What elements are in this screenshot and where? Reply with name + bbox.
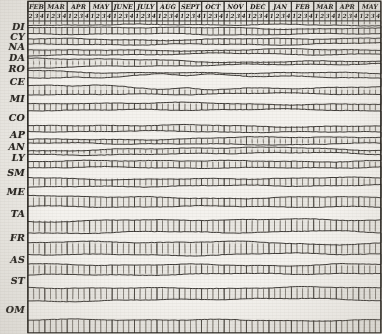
week-header-label: 1 (90, 13, 94, 19)
week-header-label: 3 (259, 13, 263, 19)
week-header-label: 2 (230, 13, 235, 19)
week-header-label: 2 (95, 13, 100, 19)
week-header-label: 1 (337, 13, 341, 19)
chart-page: DICYNADAROCEMICOAPANLYSMMETAFRASSTOM FEB… (0, 0, 382, 334)
header-layer: FEBMARAPRMAYJUNEJULYAUGSEPTOCTNOVDECJANF… (28, 1, 381, 21)
week-header-label: 2 (140, 13, 145, 19)
row-label-ap: AP (10, 130, 25, 140)
band-outline (28, 109, 381, 128)
month-header-label: FEB (28, 3, 44, 11)
row-label-me: ME (7, 187, 25, 197)
week-header-label: 1 (46, 13, 50, 19)
month-header-label: SEPT (181, 3, 201, 11)
week-header-label: 3 (124, 13, 128, 19)
band-outline (28, 273, 381, 288)
week-header-label: 2 (207, 13, 212, 19)
week-header-label: 2 (297, 13, 302, 19)
week-header-label: 4 (376, 13, 380, 19)
month-header-label: MAY (361, 3, 380, 11)
week-header-label: 2 (364, 13, 369, 19)
week-header-label: 4 (62, 13, 66, 19)
week-header-label: 1 (225, 13, 229, 19)
month-header-label: AUG (159, 3, 177, 11)
row-label-cy: CY (10, 32, 25, 42)
week-header-label: 4 (354, 13, 358, 19)
week-header-label: 1 (247, 13, 251, 19)
week-header-label: 1 (180, 13, 184, 19)
week-header-label: 2 (274, 13, 279, 19)
week-header-label: 3 (371, 13, 375, 19)
month-header-label: APR (339, 3, 355, 11)
week-header-label: 2 (319, 13, 324, 19)
week-header-label: 3 (34, 13, 38, 19)
month-header-label: FEB (294, 3, 310, 11)
week-header-label: 1 (113, 13, 117, 19)
timeline-band (28, 166, 381, 180)
week-header-label: 4 (130, 13, 134, 19)
timeline-svg: FEBMARAPRMAYJUNEJULYAUGSEPTOCTNOVDECJANF… (27, 0, 382, 334)
row-label-ce: CE (10, 77, 25, 87)
week-header-label: 3 (79, 13, 83, 19)
timeline-band (28, 298, 381, 321)
month-header-label: MAR (315, 3, 333, 11)
week-header-label: 4 (197, 13, 201, 19)
week-header-label: 3 (169, 13, 173, 19)
week-header-label: 3 (191, 13, 195, 19)
week-header-label: 1 (135, 13, 139, 19)
month-header-label: MAY (92, 3, 111, 11)
row-label-da: DA (9, 53, 25, 63)
week-header-label: 4 (331, 13, 335, 19)
week-header-label: 2 (342, 13, 347, 19)
week-header-label: 1 (203, 13, 207, 19)
week-header-label: 2 (50, 13, 55, 19)
week-header-label: 1 (292, 13, 296, 19)
month-header-label: MAR (46, 3, 64, 11)
week-header-label: 4 (309, 13, 313, 19)
week-header-label: 3 (303, 13, 307, 19)
row-label-sm: SM (7, 168, 25, 178)
row-label-st: ST (11, 276, 25, 286)
week-header-label: 1 (158, 13, 162, 19)
row-label-mi: MI (10, 94, 25, 104)
week-header-label: 2 (252, 13, 257, 19)
week-header-label: 1 (359, 13, 363, 19)
week-header-label: 4 (264, 13, 268, 19)
row-label-di: DI (12, 22, 25, 32)
week-header-label: 3 (147, 13, 151, 19)
week-header-label: 4 (287, 13, 291, 19)
month-header-label: DEC (249, 3, 266, 11)
row-label-co: CO (9, 113, 25, 123)
month-header-label: APR (70, 3, 86, 11)
week-header-label: 1 (68, 13, 72, 19)
week-header-label: 4 (175, 13, 179, 19)
week-header-label: 4 (107, 13, 111, 19)
timeline-band (28, 273, 381, 288)
week-header-label: 3 (57, 13, 61, 19)
timeline-band (28, 109, 381, 128)
week-header-label: 3 (326, 13, 330, 19)
week-header-label: 4 (219, 13, 223, 19)
timeline-band (28, 205, 381, 222)
week-header-label: 4 (152, 13, 156, 19)
week-header-label: 4 (40, 13, 44, 19)
row-label-an: AN (9, 142, 25, 152)
week-header-label: 2 (185, 13, 190, 19)
band-outline (28, 166, 381, 180)
timeline-plot: FEBMARAPRMAYJUNEJULYAUGSEPTOCTNOVDECJANF… (27, 0, 382, 334)
month-header-label: JULY (135, 3, 156, 11)
row-label-ro: RO (8, 64, 25, 74)
month-header-label: JAN (271, 3, 288, 11)
week-header-label: 3 (348, 13, 352, 19)
band-outline (28, 184, 381, 199)
month-header-label: NOV (226, 3, 244, 11)
band-outline (28, 205, 381, 222)
week-header-label: 4 (85, 13, 89, 19)
timeline-band (28, 184, 381, 199)
month-header-label: OCT (205, 3, 222, 11)
row-label-ta: TA (11, 209, 25, 219)
week-header-label: 2 (28, 13, 33, 19)
bands-layer (28, 22, 381, 334)
week-header-label: 3 (281, 13, 285, 19)
week-header-label: 2 (117, 13, 122, 19)
week-header-label: 2 (162, 13, 167, 19)
